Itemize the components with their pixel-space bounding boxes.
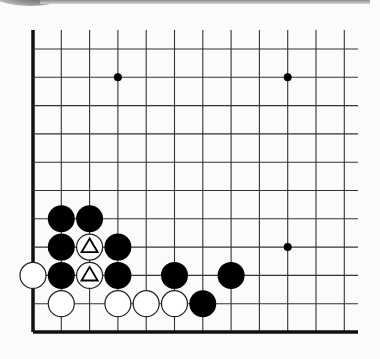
white-stone xyxy=(162,291,188,317)
go-board xyxy=(0,0,380,359)
black-stone xyxy=(218,262,245,289)
white-stone xyxy=(48,291,74,317)
black-stone xyxy=(48,234,75,261)
white-stone xyxy=(133,291,159,317)
star-point xyxy=(114,73,122,81)
black-stone xyxy=(161,262,188,289)
black-stone xyxy=(104,262,131,289)
star-point xyxy=(284,73,292,81)
star-point xyxy=(284,243,292,251)
black-stone xyxy=(189,290,216,317)
black-stone xyxy=(48,262,75,289)
white-stone xyxy=(105,291,131,317)
black-stone xyxy=(104,234,131,261)
stones xyxy=(20,205,245,317)
black-stone xyxy=(48,205,75,232)
white-stone xyxy=(20,262,46,288)
black-stone xyxy=(76,205,103,232)
grid-lines xyxy=(33,30,358,332)
